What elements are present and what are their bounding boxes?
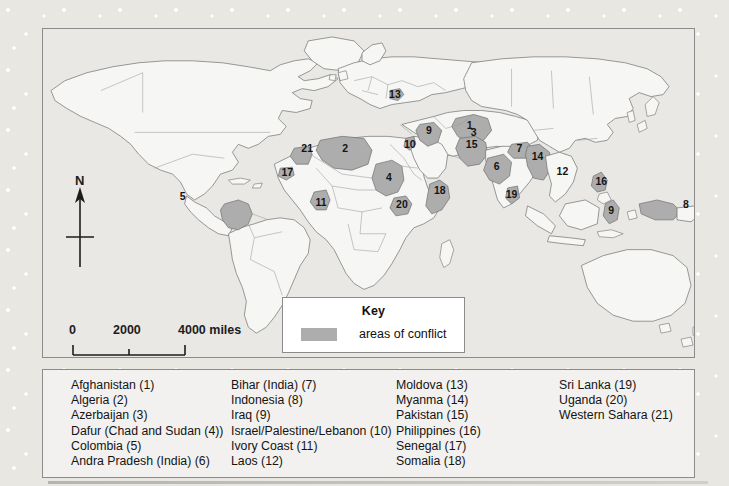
- country-index-item: Israel/Palestine/Lebanon (10): [231, 424, 392, 439]
- svg-text:9: 9: [426, 125, 432, 136]
- svg-text:7: 7: [517, 143, 523, 154]
- key-conflict-label: areas of conflict: [359, 327, 447, 341]
- scale-bar-labels: 0 2000 4000 miles: [42, 323, 213, 341]
- svg-text:1: 1: [467, 120, 473, 131]
- key-conflict-swatch: [301, 328, 337, 341]
- country-index-item: Myanma (14): [396, 393, 481, 408]
- svg-text:2: 2: [342, 143, 348, 154]
- svg-text:18: 18: [434, 185, 446, 196]
- country-index-item: Afghanistan (1): [71, 378, 223, 393]
- svg-text:11: 11: [316, 197, 327, 208]
- country-index-item: Azerbaijan (3): [71, 408, 223, 423]
- svg-text:10: 10: [404, 139, 416, 150]
- country-index-item: Algeria (2): [71, 393, 223, 408]
- svg-text:13: 13: [389, 89, 401, 100]
- country-index-item: Senegal (17): [396, 439, 481, 454]
- key-legend-row: areas of conflict: [283, 327, 464, 341]
- country-index-item: Pakistan (15): [396, 408, 481, 423]
- country-index-item: Ivory Coast (11): [231, 439, 392, 454]
- svg-text:8: 8: [683, 199, 689, 210]
- svg-text:20: 20: [396, 199, 408, 210]
- key-title: Key: [283, 304, 464, 318]
- country-index-panel: Afghanistan (1)Algeria (2)Azerbaijan (3)…: [42, 369, 695, 478]
- svg-text:19: 19: [506, 189, 518, 200]
- svg-text:15: 15: [466, 139, 478, 150]
- country-index-column-1: Afghanistan (1)Algeria (2)Azerbaijan (3)…: [71, 378, 223, 469]
- scale-tick-0: 0: [69, 323, 76, 337]
- country-index-item: Bihar (India) (7): [231, 378, 392, 393]
- page-edge-shadow: [48, 481, 708, 484]
- world-map-panel[interactable]: .land { fill:#f6f6f4; stroke:#6f6f6f; st…: [42, 28, 695, 358]
- country-index-item: Uganda (20): [559, 393, 673, 408]
- country-index-item: Western Sahara (21): [559, 408, 673, 423]
- country-index-item: Iraq (9): [231, 408, 392, 423]
- country-index-item: Somalia (18): [396, 454, 481, 469]
- compass-north-label: N: [49, 173, 111, 188]
- compass-rose: N: [49, 173, 111, 273]
- scale-tick-2000: 2000: [113, 323, 141, 337]
- country-index-column-2: Bihar (India) (7)Indonesia (8)Iraq (9)Is…: [231, 378, 392, 469]
- svg-text:4: 4: [386, 172, 392, 183]
- country-index-item: Laos (12): [231, 454, 392, 469]
- svg-text:17: 17: [281, 167, 293, 178]
- country-index-item: Andra Pradesh (India) (6): [71, 454, 223, 469]
- country-index-item: Sri Lanka (19): [559, 378, 673, 393]
- scale-tick-4000: 4000 miles: [178, 323, 241, 337]
- country-index-item: Colombia (5): [71, 439, 223, 454]
- country-index-columns: Afghanistan (1)Algeria (2)Azerbaijan (3)…: [43, 370, 694, 477]
- svg-text:12: 12: [557, 166, 569, 177]
- svg-text:21: 21: [301, 143, 313, 154]
- svg-text:9: 9: [608, 205, 614, 216]
- svg-text:14: 14: [532, 151, 544, 162]
- country-index-item: Indonesia (8): [231, 393, 392, 408]
- country-index-item: Philippines (16): [396, 424, 481, 439]
- country-index-item: Moldova (13): [396, 378, 481, 393]
- compass-north-arrow-icon: [49, 173, 111, 273]
- scale-bar-graphic: [42, 341, 213, 358]
- map-scale-bar: 0 2000 4000 miles: [42, 323, 213, 358]
- svg-text:6: 6: [494, 161, 500, 172]
- country-index-column-4: Sri Lanka (19)Uganda (20)Western Sahara …: [559, 378, 673, 424]
- svg-text:16: 16: [595, 176, 607, 187]
- country-index-column-3: Moldova (13)Myanma (14)Pakistan (15)Phil…: [396, 378, 481, 469]
- map-key-box[interactable]: Key areas of conflict: [282, 297, 465, 353]
- svg-text:5: 5: [180, 191, 186, 202]
- country-index-item: Dafur (Chad and Sudan (4)): [71, 424, 223, 439]
